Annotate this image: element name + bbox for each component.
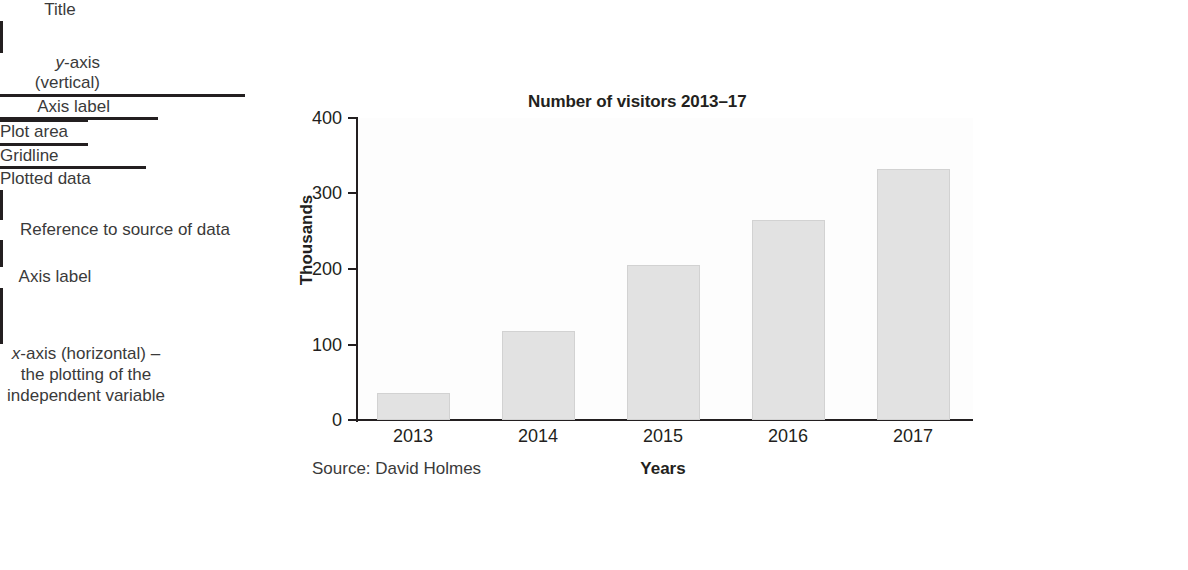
bar-2015: [627, 265, 700, 420]
bar-2013: [377, 393, 450, 420]
y-tick-300: [348, 192, 357, 194]
chart-title: Number of visitors 2013–17: [528, 92, 747, 112]
x-tick-label-2014: 2014: [488, 427, 588, 445]
y-axis-label: Thousands: [297, 170, 317, 310]
chart-figure: Number of visitors 2013–17 400 300 200 1…: [0, 0, 1188, 570]
y-tick-400: [348, 117, 357, 119]
y-tick-label-400: 400: [296, 109, 342, 127]
figure-root: Number of visitors 2013–17 400 300 200 1…: [0, 0, 1188, 570]
y-tick-label-100: 100: [296, 336, 342, 354]
y-tick-100: [348, 344, 357, 346]
y-tick-label-0: 0: [296, 411, 342, 429]
bar-2014: [502, 331, 575, 420]
y-tick-200: [348, 268, 357, 270]
x-axis-label: Years: [613, 459, 713, 479]
x-tick-label-2015: 2015: [613, 427, 713, 445]
y-tick-0: [348, 419, 357, 421]
x-tick-label-2013: 2013: [363, 427, 463, 445]
source-note: Source: David Holmes: [312, 459, 481, 479]
x-tick-label-2016: 2016: [738, 427, 838, 445]
bar-2017: [877, 169, 950, 420]
bar-2016: [752, 220, 825, 420]
x-tick-label-2017: 2017: [863, 427, 963, 445]
